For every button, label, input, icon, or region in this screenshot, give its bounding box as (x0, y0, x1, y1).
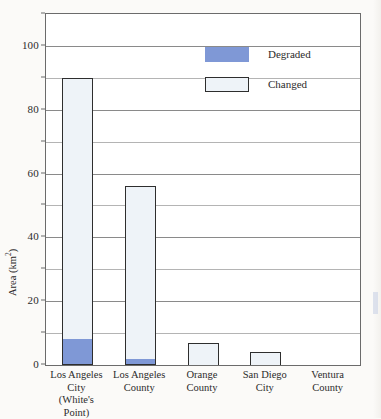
legend-item[interactable]: Changed (196, 69, 346, 99)
x-tick-label: Los Angeles County (108, 369, 171, 394)
scan-mark-artifact (373, 292, 378, 314)
bar-group[interactable] (62, 78, 93, 365)
y-axis-title-close: ) (7, 249, 18, 253)
legend-item[interactable]: Degraded (196, 39, 346, 69)
y-axis-title: Area (km2) (4, 249, 18, 296)
x-tick-label: Los Angeles City (White's Point) (45, 369, 108, 419)
degraded-swatch (205, 47, 249, 62)
bar-group[interactable] (250, 352, 281, 365)
y-axis: 020406080100 (0, 0, 45, 418)
y-axis-title-base: Area (km (7, 256, 18, 296)
bar-group[interactable] (188, 343, 219, 365)
gridline-minor (46, 333, 360, 334)
y-tick-label: 80 (28, 103, 39, 115)
y-tick-label: 60 (28, 167, 39, 179)
gridline-major (46, 237, 360, 238)
bar-segment-degraded[interactable] (62, 339, 93, 365)
scan-edge-artifact (373, 0, 381, 418)
x-axis: Los Angeles City (White's Point)Los Ange… (45, 369, 361, 418)
x-tick-label: Orange County (171, 369, 234, 394)
bar-segment-changed[interactable] (250, 352, 281, 365)
legend-swatch-wrap (196, 77, 258, 92)
bar-segment-changed[interactable] (62, 78, 93, 340)
y-tick-label: 20 (28, 294, 39, 306)
x-tick-label: Ventura County (296, 369, 359, 394)
gridline-major (46, 110, 360, 111)
legend-label: Changed (268, 78, 307, 90)
gridline-minor (46, 142, 360, 143)
changed-swatch (205, 77, 249, 92)
y-tick-label: 0 (33, 358, 39, 370)
y-tick-label: 100 (22, 39, 39, 51)
gridline-minor (46, 269, 360, 270)
bar-segment-degraded[interactable] (125, 359, 156, 365)
gridline-minor (46, 205, 360, 206)
legend-swatch-wrap (196, 47, 258, 62)
chart-legend: DegradedChanged (196, 39, 346, 99)
bar-segment-changed[interactable] (125, 186, 156, 358)
legend-label: Degraded (268, 48, 311, 60)
gridline-major (46, 301, 360, 302)
bar-segment-changed[interactable] (188, 343, 219, 365)
gridline-major (46, 174, 360, 175)
x-tick-label: San Diego City (233, 369, 296, 394)
y-tick-label: 40 (28, 230, 39, 242)
y-axis-title-exponent: 2 (4, 252, 13, 256)
bar-group[interactable] (125, 186, 156, 365)
